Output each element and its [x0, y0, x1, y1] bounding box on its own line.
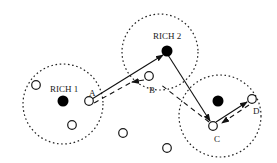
node — [163, 144, 172, 153]
rich3-range — [179, 75, 261, 157]
rich2-label: RICH 2 — [153, 31, 181, 41]
node — [119, 129, 128, 138]
edge-b-a-arrow — [132, 80, 144, 82]
edge-rich2-c — [168, 55, 210, 121]
node-d-label: D — [253, 106, 260, 116]
network-diagram: RICH 1 RICH 2 A B C D — [0, 0, 277, 163]
rich2-node — [162, 46, 173, 57]
rich1-node — [58, 96, 69, 107]
edge-c-b-dashed — [160, 84, 209, 122]
node-b-label: B — [149, 85, 155, 95]
node — [32, 81, 41, 90]
node-b — [145, 72, 154, 81]
rich3-node — [213, 96, 224, 107]
node-c-label: C — [214, 134, 220, 144]
node-c — [209, 122, 218, 131]
node-a-label: A — [89, 88, 96, 98]
rich2-range — [122, 14, 198, 90]
node-d — [248, 95, 257, 104]
edge-d-c-dashed — [222, 105, 249, 123]
rich1-label: RICH 1 — [50, 84, 78, 94]
node — [68, 121, 77, 130]
